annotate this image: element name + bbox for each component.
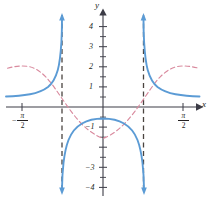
secant-right-branch — [144, 20, 200, 97]
y-tick-label-4: 4 — [89, 23, 93, 31]
y-tick-label-neg3: −3 — [85, 164, 94, 172]
x-axis — [6, 103, 204, 111]
arrow-right-up — [141, 13, 147, 21]
trig-graph-figure: x y 4 3 2 1 −1 −3 −4 − π 2 π 2 — [0, 0, 211, 200]
y-tick-label-neg1: −1 — [85, 123, 94, 131]
y-axis-label: y — [95, 1, 99, 10]
arrow-left-down — [59, 188, 65, 196]
y-tick-label-neg4: −4 — [85, 184, 94, 192]
x-tick-label-pi-over-2: π 2 — [178, 112, 189, 129]
plot-canvas — [0, 0, 211, 200]
y-tick-label-3: 3 — [89, 43, 93, 51]
denominator-2: 2 — [178, 122, 189, 130]
secant-left-branch — [6, 20, 62, 97]
x-tick-label-neg-pi-over-2: − π 2 — [17, 112, 28, 129]
arrow-left-up — [59, 13, 65, 21]
x-axis-label: x — [202, 100, 206, 109]
y-tick-label-1: 1 — [89, 83, 93, 91]
y-tick-label-2: 2 — [89, 63, 93, 71]
numerator-pi: π — [178, 112, 189, 120]
minus-sign: − — [12, 117, 17, 125]
denominator-2: 2 — [17, 122, 28, 130]
arrow-right-down — [141, 188, 147, 196]
numerator-pi: π — [17, 112, 28, 120]
